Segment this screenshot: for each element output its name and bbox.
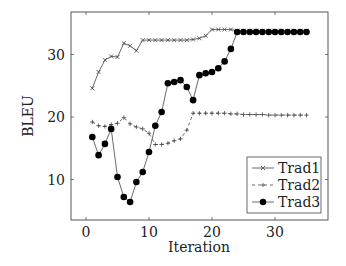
plus-marker-icon	[103, 124, 107, 128]
x-marker-icon	[204, 34, 208, 38]
plus-marker-icon	[147, 131, 151, 135]
plus-marker-icon	[279, 113, 283, 117]
filled-circle-marker-icon	[253, 29, 260, 36]
legend-label-trad3: Trad3	[278, 194, 320, 210]
filled-circle-marker-icon	[260, 199, 266, 205]
legend-label-trad1: Trad1	[278, 160, 320, 176]
filled-circle-marker-icon	[139, 169, 146, 176]
filled-circle-marker-icon	[202, 70, 209, 77]
plus-marker-icon	[115, 121, 119, 125]
plus-marker-icon	[96, 124, 100, 128]
plus-marker-icon	[204, 111, 208, 115]
filled-circle-marker-icon	[95, 152, 102, 159]
plus-marker-icon	[134, 125, 138, 129]
plus-marker-icon	[273, 113, 277, 117]
plus-marker-icon	[241, 112, 245, 116]
plus-marker-icon	[172, 139, 176, 143]
filled-circle-marker-icon	[108, 126, 115, 133]
filled-circle-marker-icon	[265, 29, 272, 36]
filled-circle-marker-icon	[133, 179, 140, 186]
x-marker-icon	[90, 86, 94, 90]
filled-circle-marker-icon	[240, 29, 247, 36]
filled-circle-marker-icon	[297, 29, 304, 36]
filled-circle-marker-icon	[303, 29, 310, 36]
filled-circle-marker-icon	[158, 109, 165, 116]
filled-circle-marker-icon	[278, 29, 285, 36]
filled-circle-marker-icon	[165, 80, 172, 87]
legend: Trad1 Trad2 Trad3	[247, 157, 321, 213]
plus-marker-icon	[197, 111, 201, 115]
plus-marker-icon	[298, 113, 302, 117]
plus-marker-icon	[292, 113, 296, 117]
plus-marker-icon	[260, 112, 264, 116]
plus-marker-icon	[141, 127, 145, 131]
plus-marker-icon	[128, 122, 132, 126]
y-tick-label: 30	[47, 47, 65, 63]
plus-marker-icon	[191, 111, 195, 115]
plus-marker-icon	[267, 113, 271, 117]
filled-circle-marker-icon	[121, 194, 128, 201]
filled-circle-marker-icon	[291, 29, 298, 36]
filled-circle-marker-icon	[284, 29, 291, 36]
filled-circle-marker-icon	[247, 29, 254, 36]
plus-marker-icon	[285, 113, 289, 117]
filled-circle-marker-icon	[259, 29, 266, 36]
x-marker-icon	[134, 49, 138, 53]
plus-marker-icon	[159, 142, 163, 146]
x-tick-label: 10	[140, 224, 158, 240]
series-trad1	[90, 28, 308, 91]
filled-circle-marker-icon	[146, 149, 153, 156]
filled-circle-marker-icon	[89, 134, 96, 141]
filled-circle-marker-icon	[196, 72, 203, 79]
plus-marker-icon	[153, 142, 157, 146]
plus-marker-icon	[229, 112, 233, 116]
plus-marker-icon	[90, 120, 94, 124]
filled-circle-marker-icon	[184, 84, 191, 91]
plus-marker-icon	[222, 111, 226, 115]
filled-circle-marker-icon	[234, 29, 241, 36]
x-tick-label: 30	[266, 224, 284, 240]
plus-marker-icon	[235, 112, 239, 116]
plus-marker-icon	[216, 111, 220, 115]
x-marker-icon	[103, 58, 107, 62]
series-trad2	[90, 111, 309, 147]
x-marker-icon	[128, 44, 132, 48]
filled-circle-marker-icon	[190, 97, 197, 104]
filled-circle-marker-icon	[114, 174, 121, 181]
plus-marker-icon	[178, 137, 182, 141]
y-tick-label: 20	[47, 109, 65, 125]
x-tick-label: 20	[203, 224, 221, 240]
plus-marker-icon	[210, 111, 214, 115]
filled-circle-marker-icon	[221, 58, 228, 65]
filled-circle-marker-icon	[152, 122, 159, 129]
filled-circle-marker-icon	[177, 77, 184, 84]
filled-circle-marker-icon	[102, 141, 109, 148]
x-tick-label: 0	[82, 224, 91, 240]
plus-marker-icon	[166, 141, 170, 145]
filled-circle-marker-icon	[272, 29, 279, 36]
x-marker-icon	[122, 41, 126, 45]
y-tick-label: 10	[47, 172, 65, 188]
filled-circle-marker-icon	[127, 199, 134, 206]
filled-circle-marker-icon	[215, 65, 222, 72]
axes: Iteration BLEU 0102030102030	[20, 12, 328, 255]
filled-circle-marker-icon	[209, 69, 216, 76]
line-chart: Iteration BLEU 0102030102030 Trad1 Trad2…	[0, 0, 346, 266]
plus-marker-icon	[185, 128, 189, 132]
legend-label-trad2: Trad2	[278, 177, 320, 193]
plus-marker-icon	[248, 112, 252, 116]
y-axis-label: BLEU	[20, 95, 36, 137]
x-marker-icon	[97, 70, 101, 74]
plus-marker-icon	[304, 113, 308, 117]
x-axis-label: Iteration	[168, 239, 230, 255]
filled-circle-marker-icon	[228, 46, 235, 53]
plus-marker-icon	[254, 112, 258, 116]
filled-circle-marker-icon	[171, 79, 178, 86]
